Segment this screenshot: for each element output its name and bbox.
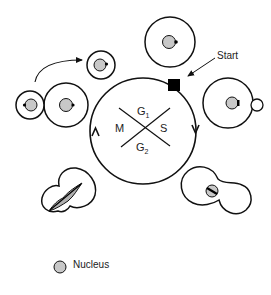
curved-arrow (35, 60, 82, 82)
cell-g1-unbudded (145, 17, 195, 67)
legend-nucleus-icon (54, 261, 66, 273)
spindle-pole-body (71, 103, 74, 106)
cycle-circle: G1 S G2 M (90, 78, 199, 184)
nucleus (226, 97, 238, 109)
legend (54, 261, 66, 273)
spindle-pole-body (23, 103, 26, 106)
bud (251, 99, 263, 111)
nucleus (25, 99, 37, 111)
cell-budding (203, 78, 263, 128)
nucleus (94, 59, 106, 71)
phase-label-m: M (115, 122, 124, 134)
phase-label-s: S (160, 122, 167, 134)
cell-large-bud (181, 167, 251, 214)
spindle-pole-body (105, 62, 108, 65)
phase-label-g2: G2 (136, 141, 149, 155)
cell-mother (44, 83, 88, 127)
cell-cycle-diagram: G1 S G2 M Start (0, 0, 271, 295)
cell-mitosis (42, 168, 96, 212)
nucleus (60, 99, 73, 112)
legend-nucleus-label: Nucleus (73, 259, 109, 270)
nucleus (163, 36, 176, 49)
spindle-pole-body (174, 40, 178, 44)
start-arrow (188, 58, 215, 76)
spindle-pole-body (237, 100, 240, 106)
start-label: Start (217, 50, 238, 61)
start-marker (168, 79, 180, 91)
arrow-up-icon (92, 128, 99, 136)
cell-daughter-small (87, 51, 115, 79)
phase-label-g1: G1 (137, 105, 150, 119)
cell-daughter (16, 91, 44, 119)
